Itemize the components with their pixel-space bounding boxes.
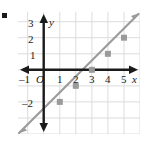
origin-label: O [36,74,44,85]
y-tick-label-neg2: –2 [22,98,33,109]
data-point [121,35,127,41]
x-tick-label-3: 3 [89,74,95,85]
y-axis-label: y [49,17,54,28]
y-tick-label-2: 2 [28,34,34,45]
y-tick-label-3: 3 [28,18,34,29]
plot-area: 3 2 1 –2 –1 1 2 3 4 5 O y x [18,12,140,134]
data-point [105,51,111,57]
x-axis-label: x [132,74,137,85]
x-tick-label-neg1: –1 [19,74,30,85]
coordinate-graph-figure: 3 2 1 –2 –1 1 2 3 4 5 O y x [0,0,145,146]
data-point [89,67,95,73]
y-tick-label-1: 1 [30,50,36,61]
data-point [57,99,63,105]
corner-bullet-mark [2,13,7,18]
x-tick-label-2: 2 [73,74,79,85]
x-tick-label-4: 4 [105,74,111,85]
x-tick-label-5: 5 [121,74,127,85]
x-tick-label-1: 1 [57,74,63,85]
